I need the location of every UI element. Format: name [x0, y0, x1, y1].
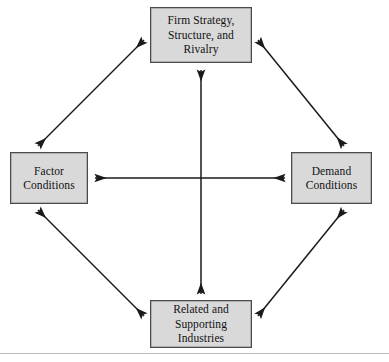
node-factor-conditions-label: Factor Conditions — [19, 164, 78, 193]
node-demand-conditions-label: Demand Conditions — [302, 164, 361, 193]
connector-bottom-right — [258, 210, 344, 316]
connector-top-right — [258, 40, 344, 146]
node-demand-conditions: Demand Conditions — [291, 152, 372, 204]
footer-divider — [0, 353, 389, 354]
node-firm-strategy: Firm Strategy, Structure, and Rivalry — [150, 7, 252, 63]
connector-left-bottom — [38, 210, 144, 316]
node-firm-strategy-label: Firm Strategy, Structure, and Rivalry — [163, 13, 238, 57]
diagram-canvas: Firm Strategy, Structure, and Rivalry Fa… — [0, 0, 389, 362]
node-related-supporting-industries: Related and Supporting Industries — [150, 300, 252, 348]
node-related-supporting-industries-label: Related and Supporting Industries — [169, 302, 233, 346]
node-factor-conditions: Factor Conditions — [10, 152, 88, 204]
connector-left-top — [38, 40, 144, 146]
